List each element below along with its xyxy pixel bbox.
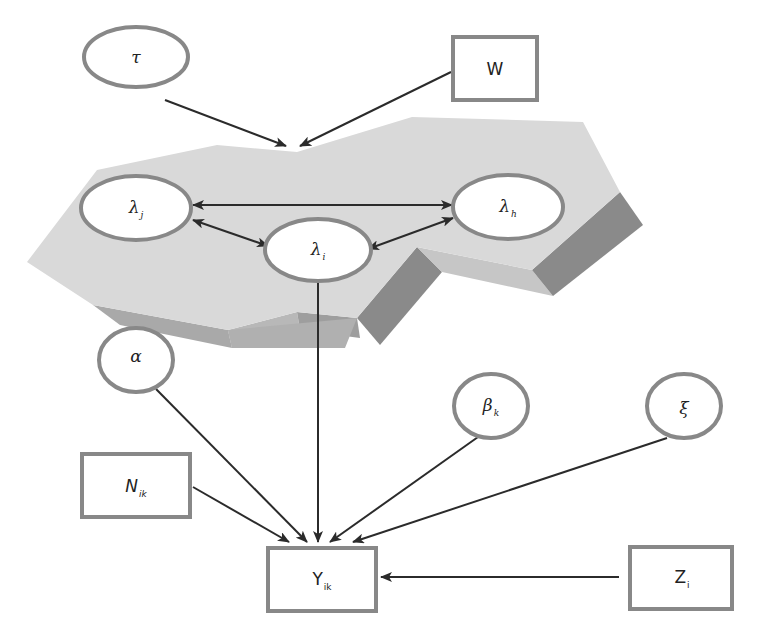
node-Y-ik[interactable] bbox=[268, 548, 376, 611]
node-lambda-i[interactable] bbox=[265, 219, 371, 281]
node-Z-i[interactable] bbox=[630, 547, 732, 609]
node-lambda-h[interactable] bbox=[453, 175, 563, 239]
diagram-canvas bbox=[0, 0, 776, 642]
node-beta-k[interactable] bbox=[454, 374, 528, 438]
edge-xi-to-Yik bbox=[353, 438, 667, 542]
node-lambda-j[interactable] bbox=[81, 176, 191, 240]
edge-betak-to-Yik bbox=[330, 437, 478, 542]
graphical-model-diagram: τ W λj λh λi α βk ξ Nik Yik Zi bbox=[0, 0, 776, 642]
edge-tau-to-plate bbox=[165, 100, 286, 146]
edge-Nik-to-Yik bbox=[193, 487, 289, 542]
node-alpha[interactable] bbox=[99, 328, 173, 392]
node-xi[interactable] bbox=[647, 374, 721, 438]
node-W[interactable] bbox=[453, 37, 537, 100]
node-N-ik[interactable] bbox=[82, 454, 190, 517]
node-tau[interactable] bbox=[84, 27, 188, 87]
